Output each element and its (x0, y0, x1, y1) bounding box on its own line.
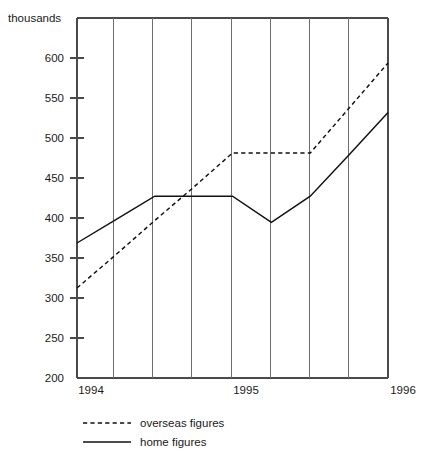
y-tick-label-250: 250 (45, 332, 64, 344)
y-tick-label-200: 200 (45, 372, 64, 384)
legend-label-overseas: overseas figures (140, 417, 225, 429)
y-tick-label-500: 500 (45, 132, 64, 144)
legend-label-home: home figures (140, 436, 207, 448)
line-chart: thousands (0, 0, 427, 460)
y-tick-label-300: 300 (45, 292, 64, 304)
chart-background (0, 0, 427, 460)
y-tick-label-450: 450 (45, 172, 64, 184)
x-tick-label-1995: 1995 (233, 384, 259, 396)
y-axis-title: thousands (8, 12, 61, 24)
y-tick-label-550: 550 (45, 92, 64, 104)
x-tick-label-1996: 1996 (390, 384, 416, 396)
y-axis-tick-labels: 600 550 500 450 400 350 300 250 200 (45, 52, 64, 384)
y-tick-label-600: 600 (45, 52, 64, 64)
x-tick-label-1994: 1994 (78, 384, 104, 396)
chart-svg: thousands (0, 0, 427, 460)
y-tick-label-350: 350 (45, 252, 64, 264)
y-tick-label-400: 400 (45, 212, 64, 224)
